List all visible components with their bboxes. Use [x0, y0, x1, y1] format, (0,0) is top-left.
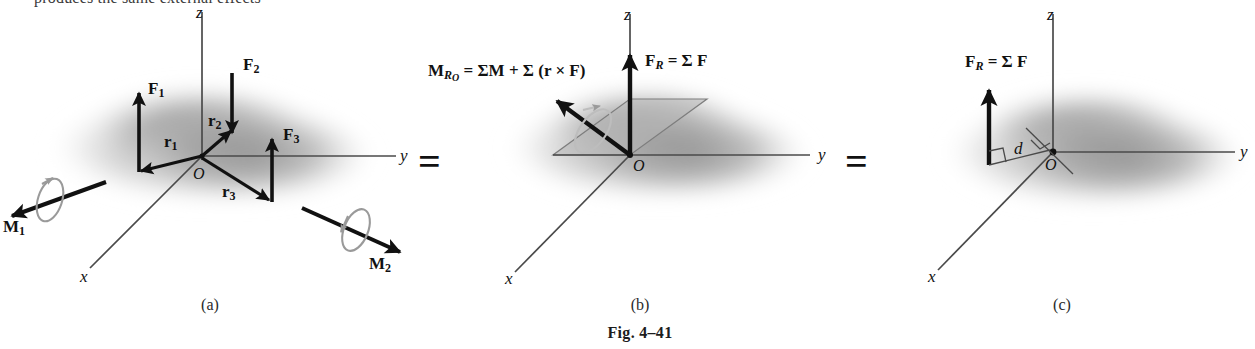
panel-c-resultant-force-equation: FR = Σ F [965, 53, 1027, 72]
clipped-header-text: produces the same external effects [34, 0, 261, 7]
panel-a-caption: (a) [160, 296, 260, 314]
panel-c-label-y: y [1240, 143, 1248, 160]
panel-c-caption: (c) [1012, 296, 1112, 314]
panel-c-label-d: d [1014, 140, 1023, 157]
panel-c-label-x: x [928, 268, 936, 285]
panel-b-label-y: y [818, 146, 826, 163]
panel-a-moment-M2-curl [337, 205, 376, 255]
figure-caption: Fig. 4–41 [575, 324, 705, 342]
panel-a-label-y: y [400, 147, 408, 164]
panel-a-label-M2: M2 [369, 255, 391, 274]
panel-a-label-origin: O [193, 166, 205, 182]
panel-a-label-F3: F3 [283, 126, 299, 145]
panel-b-label-x: x [505, 270, 513, 287]
panel-c-blob [938, 86, 1251, 210]
panel-a-moment-M1-curl [32, 175, 68, 224]
panel-a-label-r2: r2 [208, 112, 222, 131]
figure-4-41: produces the same external effects [0, 0, 1255, 349]
panel-b-caption: (b) [590, 296, 690, 314]
panel-b-resultant-force-equation: FR = Σ F [645, 52, 707, 71]
panel-a-label-F1: F1 [148, 80, 164, 99]
panel-c-label-origin: O [1045, 157, 1057, 173]
panel-b-resultant-moment-equation: MRO = ΣM + Σ (r × F) [428, 62, 585, 83]
panel-c-label-z: z [1047, 6, 1054, 23]
panel-a-label-x: x [80, 268, 88, 285]
panel-b-label-z: z [624, 6, 631, 23]
panel-a-label-F2: F2 [243, 56, 259, 75]
panel-a [12, 12, 400, 268]
equals-sign-2: = [845, 142, 868, 182]
panel-a-label-M1: M1 [3, 218, 25, 237]
panel-b-label-origin: O [633, 158, 645, 174]
panel-a-label-r1: r1 [164, 133, 178, 152]
panel-a-label-r3: r3 [222, 183, 236, 202]
panel-a-label-z: z [196, 4, 203, 21]
equals-sign-1: = [418, 142, 441, 182]
